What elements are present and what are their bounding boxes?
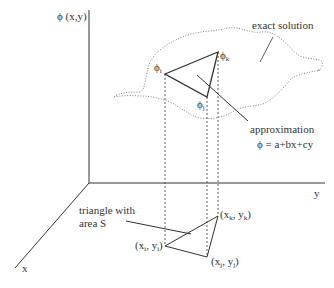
triangle-area-leader bbox=[126, 221, 191, 234]
approximation-label: approximation bbox=[250, 123, 315, 135]
xi-yi-label: (xi, yi) bbox=[135, 239, 163, 253]
x-axis-label: x bbox=[22, 262, 28, 274]
x-axis bbox=[15, 183, 89, 268]
approximation-leader bbox=[197, 75, 248, 121]
approximation-triangle bbox=[165, 52, 218, 97]
y-axis-label: y bbox=[314, 187, 320, 199]
triangle-area-label-line2: area S bbox=[79, 217, 106, 229]
phi-axis-label: ϕ (x,y) bbox=[57, 10, 87, 23]
triangle-area-label-line1: triangle with bbox=[79, 204, 135, 216]
exact-solution-leader bbox=[260, 37, 273, 62]
phi-i-label: ϕi bbox=[154, 61, 162, 75]
domain-triangle bbox=[165, 216, 218, 257]
approximation-formula: ϕ = a+bx+cy bbox=[257, 138, 314, 150]
phi-k-label: ϕk bbox=[220, 49, 230, 63]
xk-yk-label: (xk, yk) bbox=[220, 208, 251, 222]
xj-yj-label: (xj, yj) bbox=[211, 255, 239, 269]
fem-diagram: ϕ (x,y) y x exact solution ϕi ϕk ϕj appr… bbox=[0, 0, 334, 288]
exact-solution-label: exact solution bbox=[252, 19, 314, 31]
phi-j-label: ϕj bbox=[197, 98, 205, 112]
